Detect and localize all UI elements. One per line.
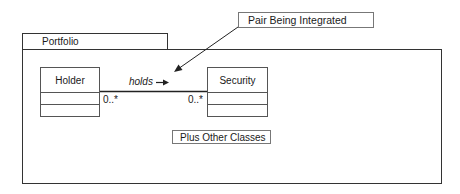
security-multiplicity: 0..* <box>188 94 203 105</box>
direction-arrow-icon <box>156 80 169 86</box>
connectors <box>0 0 460 194</box>
note-text: Plus Other Classes <box>180 132 266 143</box>
holder-multiplicity: 0..* <box>103 94 118 105</box>
callout-pair-being-integrated: Pair Being Integrated <box>238 12 374 28</box>
callout-leader-arrow-icon <box>174 27 238 72</box>
callout-text: Pair Being Integrated <box>248 14 347 26</box>
association-name: holds <box>129 76 153 87</box>
note-plus-other-classes: Plus Other Classes <box>172 130 271 144</box>
